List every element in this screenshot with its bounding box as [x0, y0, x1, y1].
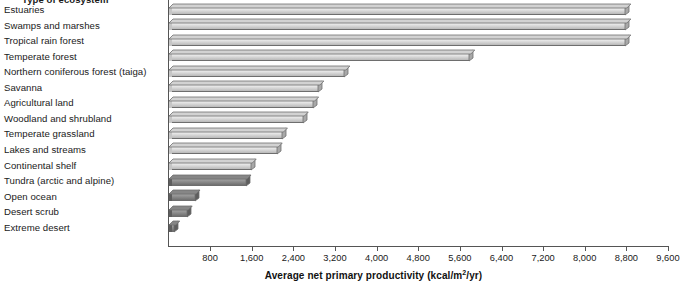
bar-top-face — [169, 128, 283, 132]
bar-top-face — [169, 159, 252, 163]
bar — [169, 50, 471, 61]
x-tick — [668, 247, 669, 251]
bar-top-face — [169, 175, 247, 179]
x-tick-label: 4,000 — [365, 253, 388, 263]
bar — [169, 66, 346, 77]
bar — [169, 112, 304, 123]
x-tick-label: 800 — [202, 253, 218, 263]
x-tick — [543, 247, 544, 251]
x-tick — [252, 247, 253, 251]
bar-top-face — [169, 19, 627, 23]
x-tick — [335, 247, 336, 251]
x-tick — [210, 247, 211, 251]
bar-top-face — [169, 206, 188, 210]
bar — [169, 206, 188, 217]
x-tick-label: 3,200 — [323, 253, 346, 263]
x-tick-label: 2,400 — [282, 253, 305, 263]
bar — [169, 175, 247, 186]
bar-top-face — [169, 81, 320, 85]
x-tick-label: 9,600 — [656, 253, 679, 263]
bar — [169, 4, 627, 15]
x-tick — [377, 247, 378, 251]
bar — [169, 97, 315, 108]
bar — [169, 221, 176, 232]
x-tick — [502, 247, 503, 251]
bar — [169, 159, 252, 170]
bar — [169, 19, 627, 30]
x-tick — [418, 247, 419, 251]
x-tick — [293, 247, 294, 251]
bar-top-face — [169, 190, 196, 194]
bar — [169, 143, 278, 154]
bar-top-face — [169, 221, 176, 225]
x-axis-title: Average net primary productivity (kcal/m… — [0, 269, 671, 281]
bar-top-face — [169, 4, 627, 8]
y-axis-line — [168, 0, 169, 247]
bar-top-face — [169, 66, 346, 70]
x-tick — [460, 247, 461, 251]
bar-top-face — [169, 35, 627, 39]
bar — [169, 190, 196, 201]
bar-top-face — [169, 143, 278, 147]
x-tick-label: 7,200 — [531, 253, 554, 263]
x-tick-label: 8,800 — [615, 253, 638, 263]
x-tick-label: 1,600 — [240, 253, 263, 263]
x-tick — [585, 247, 586, 251]
plot-area — [0, 0, 671, 248]
bar — [169, 128, 283, 139]
bar-top-face — [169, 112, 304, 116]
x-tick-label: 5,600 — [448, 253, 471, 263]
x-tick — [626, 247, 627, 251]
bar-top-face — [169, 50, 471, 54]
bar — [169, 35, 627, 46]
x-tick-label: 6,400 — [490, 253, 513, 263]
bar-top-face — [169, 97, 315, 101]
x-tick-label: 8,000 — [573, 253, 596, 263]
x-axis-title-text: Average net primary productivity (kcal/m… — [265, 270, 483, 281]
bar — [169, 81, 320, 92]
x-tick-label: 4,800 — [407, 253, 430, 263]
